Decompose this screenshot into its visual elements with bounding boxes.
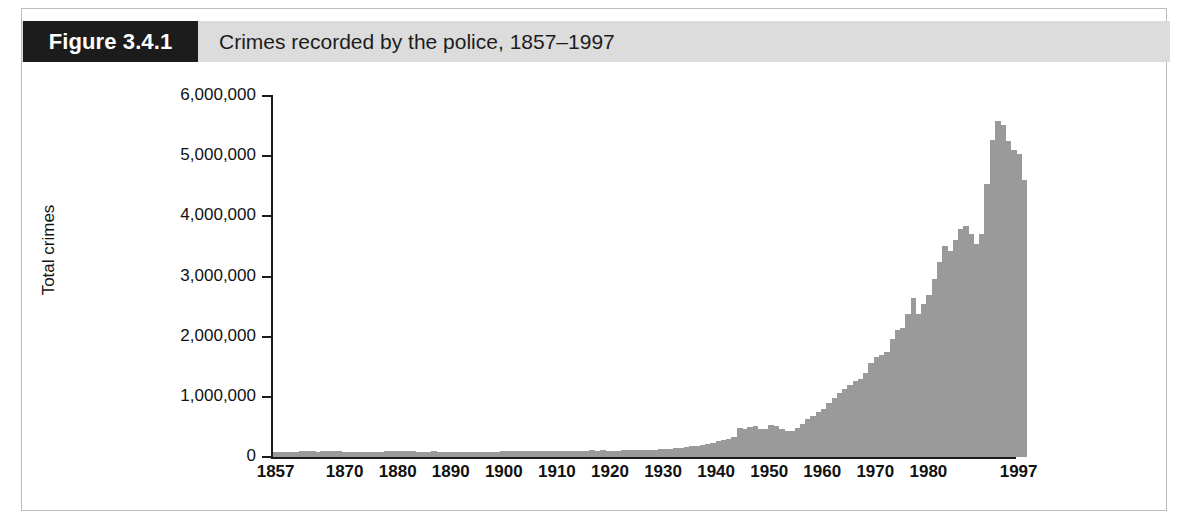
- y-axis-tick-label: 1,000,000: [106, 386, 256, 406]
- y-axis-tick: [262, 155, 273, 157]
- y-axis-tick-label: 0: [106, 446, 256, 466]
- x-axis-tick-label: 1950: [750, 462, 788, 482]
- y-axis-tick: [262, 215, 273, 217]
- x-axis-tick-label: 1997: [1000, 462, 1038, 482]
- figure-caption: Crimes recorded by the police, 1857–1997: [219, 21, 615, 62]
- y-axis-tick-label: 5,000,000: [106, 145, 256, 165]
- y-axis-tick-label: 3,000,000: [106, 266, 256, 286]
- y-axis-labels: 01,000,0002,000,0003,000,0004,000,0005,0…: [100, 62, 256, 462]
- chart-plot-region: Total crimes 01,000,0002,000,0003,000,00…: [22, 62, 1168, 512]
- x-axis-tick-label: 1930: [644, 462, 682, 482]
- figure-number-label: Figure 3.4.1: [49, 29, 172, 55]
- y-axis-tick: [262, 336, 273, 338]
- bar-series: [273, 96, 1016, 457]
- x-axis-tick-label: 1870: [326, 462, 364, 482]
- x-axis-tick-label: 1980: [909, 462, 947, 482]
- x-axis-tick-label: 1880: [379, 462, 417, 482]
- y-axis-tick: [262, 95, 273, 97]
- x-axis-tick-label: 1920: [591, 462, 629, 482]
- x-axis-tick-label: 1940: [697, 462, 735, 482]
- figure-number-badge: Figure 3.4.1: [23, 21, 198, 62]
- x-axis-labels: 1857187018801890190019101920193019401950…: [273, 462, 1016, 492]
- y-axis-tick-label: 6,000,000: [106, 85, 256, 105]
- x-axis-tick-label: 1910: [538, 462, 576, 482]
- y-axis-tick: [262, 276, 273, 278]
- x-axis-tick-label: 1890: [432, 462, 470, 482]
- bar: [1021, 180, 1027, 457]
- y-axis-tick-label: 4,000,000: [106, 205, 256, 225]
- y-axis-tick: [262, 456, 273, 458]
- x-axis-tick-label: 1960: [803, 462, 841, 482]
- x-axis-tick-label: 1857: [257, 462, 295, 482]
- x-axis-tick-label: 1970: [856, 462, 894, 482]
- y-axis-title: Total crimes: [39, 180, 59, 320]
- x-axis-tick-label: 1900: [485, 462, 523, 482]
- figure-frame: Figure 3.4.1 Crimes recorded by the poli…: [21, 8, 1167, 511]
- y-axis-tick-label: 2,000,000: [106, 326, 256, 346]
- y-axis-tick: [262, 396, 273, 398]
